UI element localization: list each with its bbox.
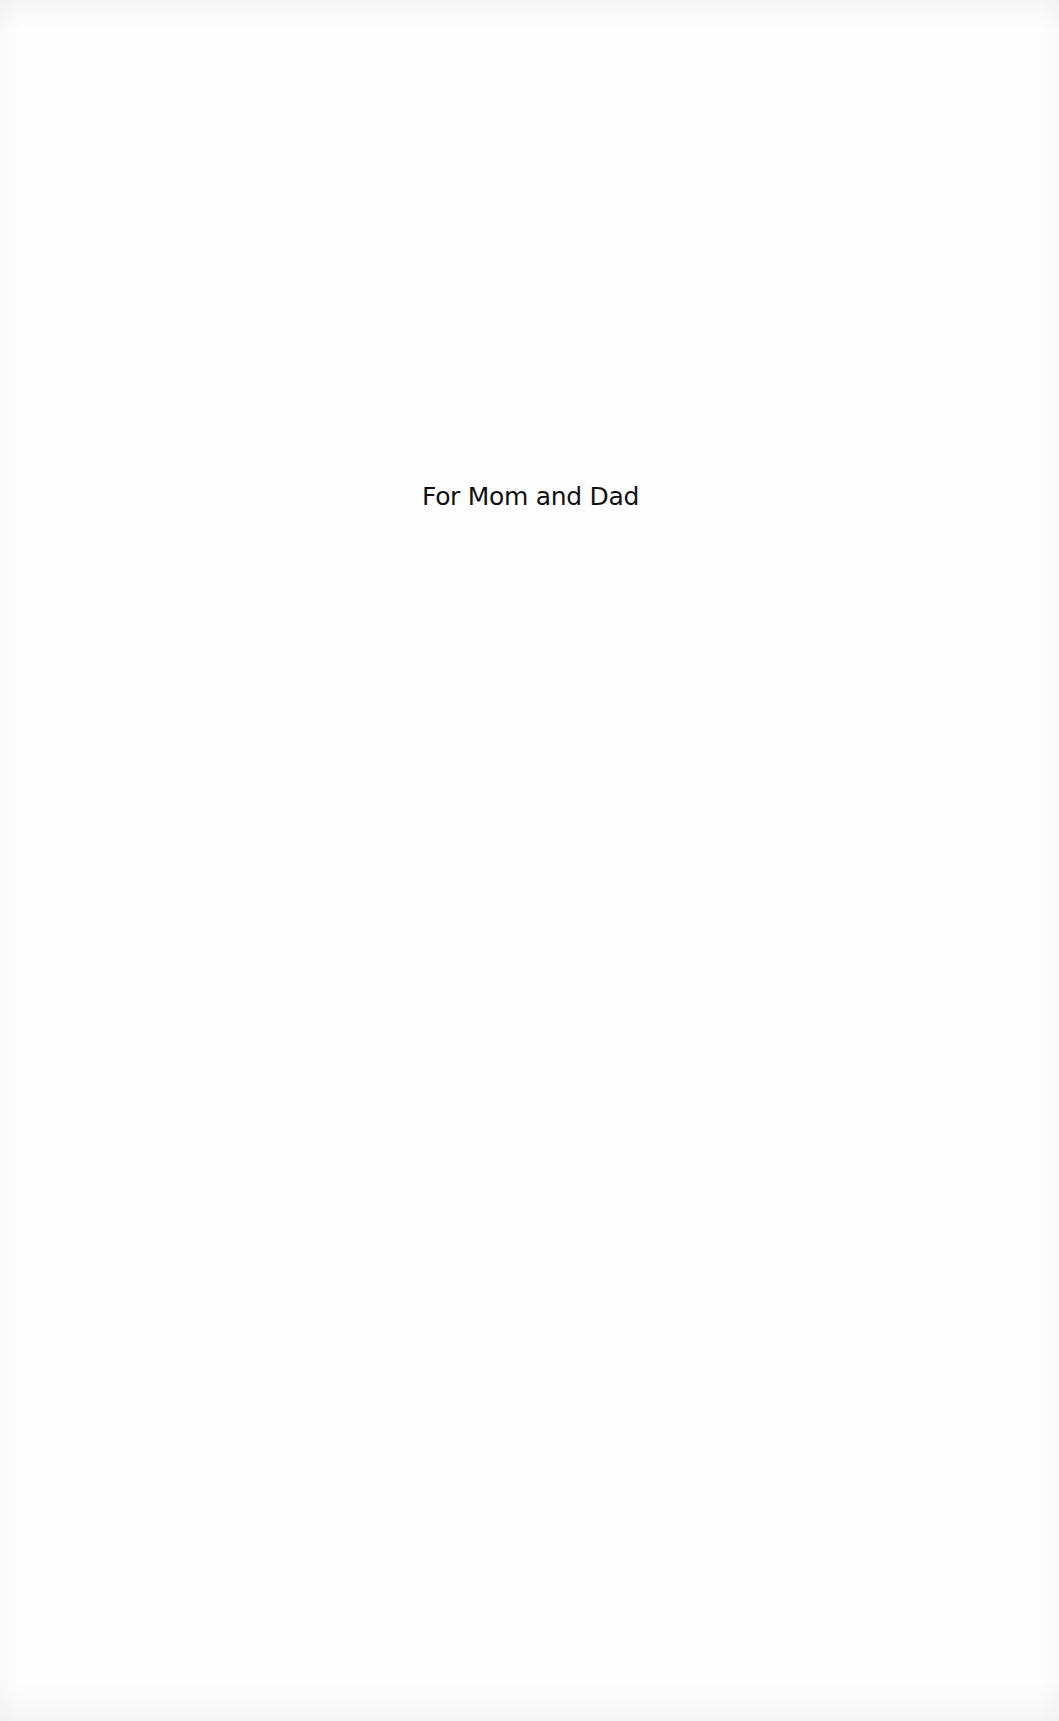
book-page: For Mom and Dad	[0, 0, 1059, 1721]
dedication-text: For Mom and Dad	[422, 484, 639, 509]
dedication-block: For Mom and Dad	[0, 484, 1059, 509]
